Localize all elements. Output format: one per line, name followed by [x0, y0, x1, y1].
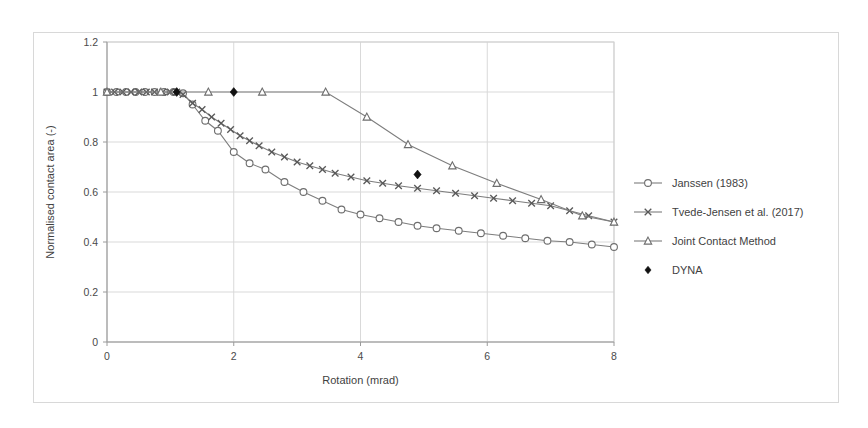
data-point-marker	[449, 162, 456, 169]
legend-label-1: Janssen (1983)	[672, 177, 748, 189]
legend: Janssen (1983)Tvede-Jensen et al. (2017)…	[634, 177, 803, 276]
data-point-marker	[611, 244, 618, 251]
data-point-marker	[544, 237, 551, 244]
data-point-marker	[319, 197, 326, 204]
x-axis-title: Rotation (mrad)	[322, 374, 398, 386]
data-point-marker	[230, 88, 237, 97]
data-point-marker	[294, 159, 301, 166]
y-axis-tick-label: 1.2	[83, 36, 98, 48]
data-point-marker	[202, 117, 209, 124]
y-axis-tick-label: 0	[92, 336, 98, 348]
data-point-marker	[455, 227, 462, 234]
data-point-marker	[246, 160, 253, 167]
data-point-marker	[338, 206, 345, 213]
data-point-marker	[493, 179, 500, 186]
data-point-marker	[307, 162, 314, 169]
data-point-marker	[300, 189, 307, 196]
data-point-marker	[433, 225, 440, 232]
legend-label-2: Tvede-Jensen et al. (2017)	[672, 206, 803, 218]
data-point-marker	[256, 142, 263, 149]
data-point-marker	[246, 137, 253, 144]
x-axis-tick-label: 6	[484, 350, 490, 362]
data-point-marker	[218, 120, 225, 127]
data-point-marker	[645, 266, 651, 273]
y-axis-tick-label: 0.8	[83, 136, 98, 148]
data-point-marker	[645, 180, 652, 187]
data-point-marker	[281, 154, 288, 161]
data-point-marker	[376, 215, 383, 222]
data-point-marker	[230, 149, 237, 156]
series-4	[173, 88, 421, 179]
y-axis-tick-label: 0.2	[83, 286, 98, 298]
data-point-marker	[414, 170, 421, 179]
x-axis-tick-label: 0	[104, 350, 110, 362]
x-axis-tick-label: 4	[358, 350, 364, 362]
data-point-marker	[208, 114, 215, 121]
x-axis-tick-label: 8	[611, 350, 617, 362]
y-axis-tick-label: 0.4	[83, 236, 98, 248]
data-point-marker	[237, 132, 244, 139]
data-point-marker	[357, 211, 364, 218]
data-point-marker	[588, 241, 595, 248]
data-point-marker	[585, 212, 592, 219]
y-axis-title: Normalised contact area (-)	[44, 125, 56, 258]
figure-root: 00.20.40.60.811.202468Rotation (mrad)Nor…	[0, 0, 868, 428]
data-point-marker	[363, 113, 370, 120]
data-point-marker	[319, 166, 326, 173]
data-point-marker	[281, 179, 288, 186]
legend-label-4: DYNA	[672, 264, 703, 276]
y-axis-tick-label: 0.6	[83, 186, 98, 198]
data-point-marker	[478, 230, 485, 237]
legend-label-3: Joint Contact Method	[672, 235, 776, 247]
data-point-marker	[414, 222, 421, 229]
chart-canvas: 00.20.40.60.811.202468Rotation (mrad)Nor…	[34, 33, 838, 402]
y-axis-tick-label: 1	[92, 86, 98, 98]
data-point-marker	[500, 232, 507, 239]
data-point-marker	[522, 235, 529, 242]
data-point-marker	[215, 127, 222, 134]
chart-frame: 00.20.40.60.811.202468Rotation (mrad)Nor…	[33, 32, 839, 403]
data-point-marker	[566, 239, 573, 246]
data-point-marker	[395, 219, 402, 226]
data-point-marker	[268, 149, 275, 156]
x-axis-tick-label: 2	[231, 350, 237, 362]
data-point-marker	[199, 106, 206, 113]
data-point-marker	[262, 166, 269, 173]
data-point-marker	[227, 126, 234, 133]
